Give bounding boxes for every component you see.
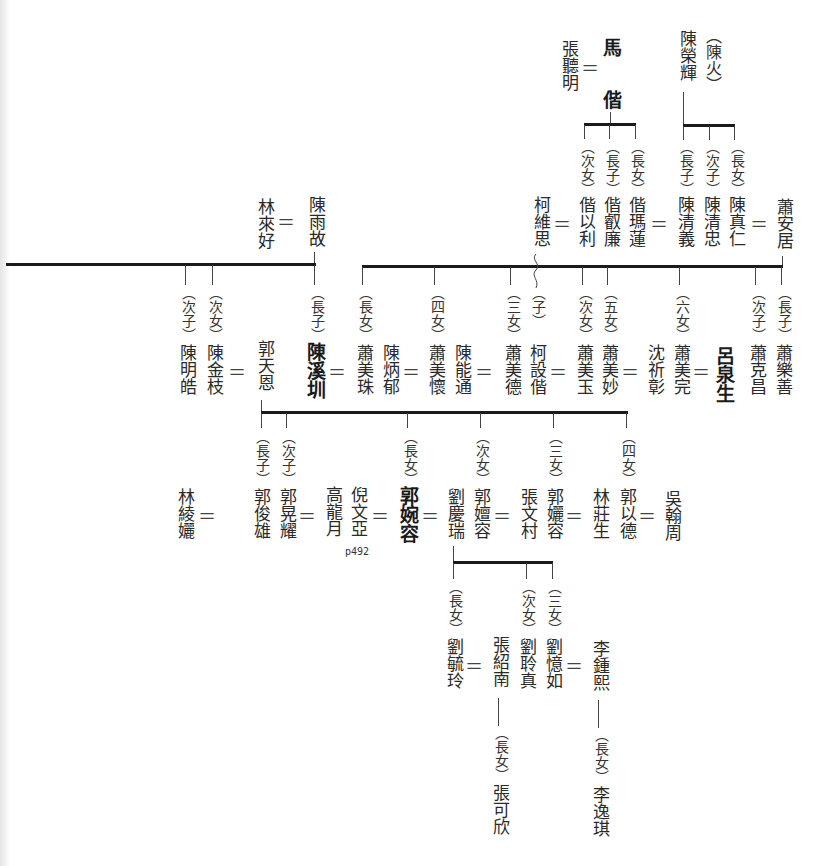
relation-label: （三女） bbox=[541, 430, 563, 486]
descent-line bbox=[607, 267, 608, 285]
marriage-symbol: ＝ bbox=[565, 658, 583, 676]
descent-line bbox=[553, 413, 554, 428]
person-name: 蕭樂善 bbox=[770, 344, 792, 395]
relation-label: （長女） bbox=[723, 140, 745, 196]
marriage-symbol: ＝ bbox=[328, 364, 346, 382]
relation-label: （五女） bbox=[596, 286, 618, 342]
person-name: 林綾孋 bbox=[172, 488, 194, 539]
person-liu-qing-rui: 劉慶瑞 bbox=[442, 488, 464, 539]
marriage-symbol: ＝ bbox=[553, 216, 571, 234]
person-chen-xi-zhen: 陳溪圳 bbox=[303, 342, 325, 399]
descent-line bbox=[626, 413, 627, 428]
person-guo-wan-rong: 郭婉容 bbox=[396, 486, 418, 543]
relation-label: （子） bbox=[524, 286, 546, 328]
person-name: 陳清義 bbox=[672, 196, 694, 247]
descent-line bbox=[582, 267, 583, 285]
person-name: 蕭美完 bbox=[668, 344, 690, 395]
descent-line bbox=[453, 563, 454, 579]
descent-line bbox=[286, 413, 287, 428]
descent-line bbox=[552, 563, 553, 579]
sibling-bar-liu bbox=[453, 561, 553, 564]
descent-line bbox=[510, 267, 511, 285]
marriage-symbol: ＝ bbox=[549, 364, 567, 382]
descent-line bbox=[609, 125, 610, 139]
relation-label: （六女） bbox=[668, 286, 690, 342]
descent-line bbox=[679, 267, 680, 285]
relation-label: （四女） bbox=[614, 430, 636, 486]
marriage-symbol: ＝ bbox=[692, 364, 710, 382]
relation-label: （長女） bbox=[351, 286, 373, 342]
relation-label: （長子） bbox=[770, 286, 792, 342]
person-name: 張可欣 bbox=[487, 784, 509, 835]
marriage-symbol: ＝ bbox=[475, 364, 493, 382]
person-name: 蕭克昌 bbox=[744, 344, 766, 395]
person-lin-lai-hao: 林來好 bbox=[252, 198, 274, 249]
person-name: 沈祈彰 bbox=[642, 344, 664, 395]
descent-line bbox=[709, 126, 710, 140]
person-name: 郭晃耀 bbox=[274, 488, 296, 539]
relation-label: （長女） bbox=[587, 728, 609, 784]
person-xiao-an-ju: 蕭安居 bbox=[771, 198, 793, 249]
descent-line bbox=[480, 413, 481, 428]
marriage-symbol: ＝ bbox=[371, 508, 389, 526]
person-name: 偕叡廉 bbox=[598, 196, 620, 247]
person-zhang-shao-nan: 張紹南 bbox=[487, 636, 509, 687]
person-name: 陳金枝 bbox=[201, 344, 223, 395]
relation-label: （次子） bbox=[744, 286, 766, 342]
person-lu-quan-sheng: 呂泉生 bbox=[712, 346, 734, 403]
descent-line bbox=[261, 413, 262, 428]
descent-line bbox=[683, 126, 684, 140]
descent-line bbox=[781, 267, 782, 285]
sibling-bar bbox=[584, 123, 636, 126]
person-chen-rong-hui: 陳榮輝 bbox=[674, 30, 696, 81]
person-name: 陳明皓 bbox=[174, 344, 196, 395]
relation-label: （長子） bbox=[598, 140, 620, 196]
person-name: 劉毓玲 bbox=[441, 638, 463, 689]
relation-label: （次子） bbox=[274, 430, 296, 486]
descent-line bbox=[526, 563, 527, 579]
person-zhang-ting-ming: 張聽明 bbox=[556, 40, 578, 91]
person-name: 偕瑪蓮 bbox=[623, 196, 645, 247]
relation-label: （長女） bbox=[441, 580, 463, 636]
relation-label: （長女） bbox=[396, 430, 418, 486]
person-name: 李逸琪 bbox=[587, 786, 609, 837]
person-ma: 馬 bbox=[599, 38, 621, 57]
marriage-symbol: ＝ bbox=[465, 658, 483, 676]
person-chen-yu-gu: 陳雨故 bbox=[303, 196, 325, 247]
person-ni-wen-ya: 倪文亞 bbox=[345, 486, 367, 537]
relation-label: （次子） bbox=[174, 286, 196, 342]
person-name: 吳翰周 bbox=[659, 490, 681, 541]
descent-line bbox=[362, 267, 363, 285]
person-name: 陳能通 bbox=[449, 344, 471, 395]
person-name: 高龍月 bbox=[320, 486, 342, 537]
marriage-symbol: ＝ bbox=[565, 508, 583, 526]
person-name: 劉聆真 bbox=[514, 638, 536, 689]
relation-label: （次女） bbox=[468, 430, 490, 486]
descent-line bbox=[584, 125, 585, 139]
relation-label: （次女） bbox=[573, 140, 595, 196]
marriage-symbol: ＝ bbox=[198, 508, 216, 526]
relation-label: （長女） bbox=[623, 140, 645, 196]
descent-line bbox=[314, 265, 315, 285]
marriage-symbol: ＝ bbox=[493, 508, 511, 526]
person-guo-tian-en: 郭天恩 bbox=[252, 340, 274, 391]
relation-label: （長子） bbox=[248, 430, 270, 486]
marriage-symbol: ＝ bbox=[402, 364, 420, 382]
person-name: 蕭美珠 bbox=[351, 344, 373, 395]
marriage-symbol: ＝ bbox=[277, 214, 295, 232]
person-name: 蕭美德 bbox=[499, 344, 521, 395]
descent-line bbox=[407, 413, 408, 428]
descent-line bbox=[683, 92, 684, 125]
descent-line bbox=[734, 126, 735, 140]
relation-label: （三女） bbox=[499, 286, 521, 342]
person-name: 陳炳郁 bbox=[377, 344, 399, 395]
person-name: 蕭美懷 bbox=[423, 344, 445, 395]
person-name: 張文村 bbox=[515, 488, 537, 539]
marriage-symbol: ＝ bbox=[638, 508, 656, 526]
person-name: 柯設偕 bbox=[524, 344, 546, 395]
descent-line bbox=[635, 125, 636, 139]
relation-label: （次子） bbox=[698, 140, 720, 196]
person-name: 林莊生 bbox=[587, 488, 609, 539]
marriage-symbol: ＝ bbox=[750, 216, 768, 234]
person-name: 偕以利 bbox=[573, 196, 595, 247]
